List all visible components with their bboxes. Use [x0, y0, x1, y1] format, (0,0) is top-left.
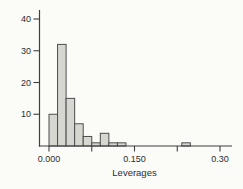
x-tick-label: 0.000	[38, 154, 61, 164]
x-tick-label: 0.150	[123, 154, 146, 164]
y-tick-label: 30	[21, 46, 31, 56]
histogram-figure: 102030400.0000.1500.30Leverages	[0, 0, 243, 189]
histogram-bar	[58, 44, 67, 146]
y-tick-label: 10	[21, 109, 31, 119]
histogram-bar	[49, 114, 58, 146]
histogram-plot: 102030400.0000.1500.30Leverages	[0, 0, 243, 189]
histogram-bar	[100, 133, 109, 146]
x-axis-title: Leverages	[112, 167, 157, 178]
histogram-bar	[66, 98, 75, 146]
y-tick-label: 40	[21, 14, 31, 24]
y-tick-label: 20	[21, 78, 31, 88]
histogram-bar	[75, 124, 84, 146]
histogram-bar	[83, 136, 92, 146]
x-tick-label: 0.30	[211, 154, 229, 164]
